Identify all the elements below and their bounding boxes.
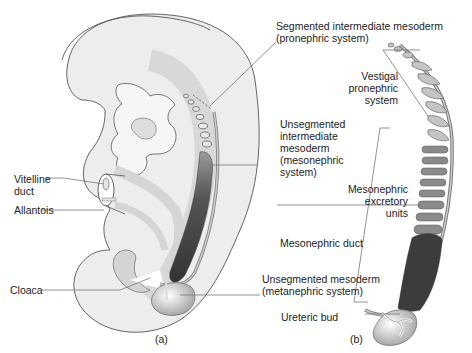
- label-mesonephric-excretory: Mesonephric excretory units: [330, 183, 408, 219]
- label-mesonephric-duct: Mesonephric duct: [280, 237, 363, 249]
- label-segmented-intermediate: Segmented intermediate mesoderm (proneph…: [276, 20, 443, 44]
- label-ureteric-bud: Ureteric bud: [281, 311, 338, 323]
- label-allantois: Allantois: [14, 204, 54, 216]
- mesonephric-mass-b: [398, 234, 442, 312]
- embryo-kidney-diagram: [0, 0, 472, 353]
- embryo-panel-a: [62, 14, 259, 332]
- label-vitelline-duct: Vitelline duct: [14, 173, 51, 197]
- label-vestigal-pronephric: Vestigal pronephric system: [340, 70, 398, 106]
- label-unsegmented-mesoderm: Unsegmented mesoderm (metanephric system…: [262, 273, 380, 297]
- label-unsegmented-intermediate: Unsegmented intermediate mesoderm (meson…: [280, 118, 345, 178]
- panel-label-b: (b): [350, 333, 363, 345]
- panel-label-a: (a): [155, 333, 168, 345]
- mesonephric-excretory-units: [414, 146, 448, 234]
- label-cloaca: Cloaca: [10, 284, 43, 296]
